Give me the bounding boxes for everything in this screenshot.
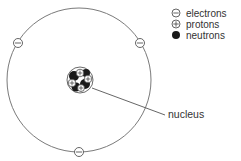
nucleus-label: nucleus <box>168 108 204 120</box>
nucleus-pointer-line <box>92 88 165 115</box>
electron-icon <box>75 148 84 157</box>
nucleus <box>67 67 93 93</box>
proton-icon <box>78 85 85 92</box>
proton-icon <box>84 75 92 83</box>
legend-item-protons: protons <box>186 19 227 30</box>
legend-label: protons <box>186 19 219 30</box>
proton-icon <box>76 69 84 77</box>
legend-electron-icon <box>172 9 180 17</box>
legend-label: electrons <box>186 8 227 19</box>
electron-icon <box>136 39 145 48</box>
proton-icon <box>68 79 76 87</box>
legend-item-electrons: electrons <box>186 8 227 19</box>
legend-item-neutrons: neutrons <box>186 30 227 41</box>
legend-label: neutrons <box>186 30 225 41</box>
legend: electrons protons neutrons <box>186 8 227 41</box>
legend-neutron-icon <box>172 31 180 39</box>
electron-icon <box>14 39 23 48</box>
legend-proton-icon <box>172 20 180 28</box>
